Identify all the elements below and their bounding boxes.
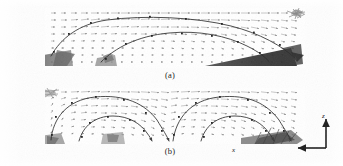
figure-canvas: (a) (0, 0, 343, 166)
axis-label-x: x (232, 146, 235, 154)
panel-b-caption: (b) (140, 146, 200, 156)
panel-b (45, 88, 305, 144)
panel-b-vector-field (45, 88, 305, 144)
panel-a-caption: (a) (140, 70, 200, 80)
panel-a-vector-field (45, 8, 305, 68)
panel-a (45, 8, 305, 68)
axis-label-z: z (322, 112, 325, 120)
axis-indicator (296, 112, 340, 156)
